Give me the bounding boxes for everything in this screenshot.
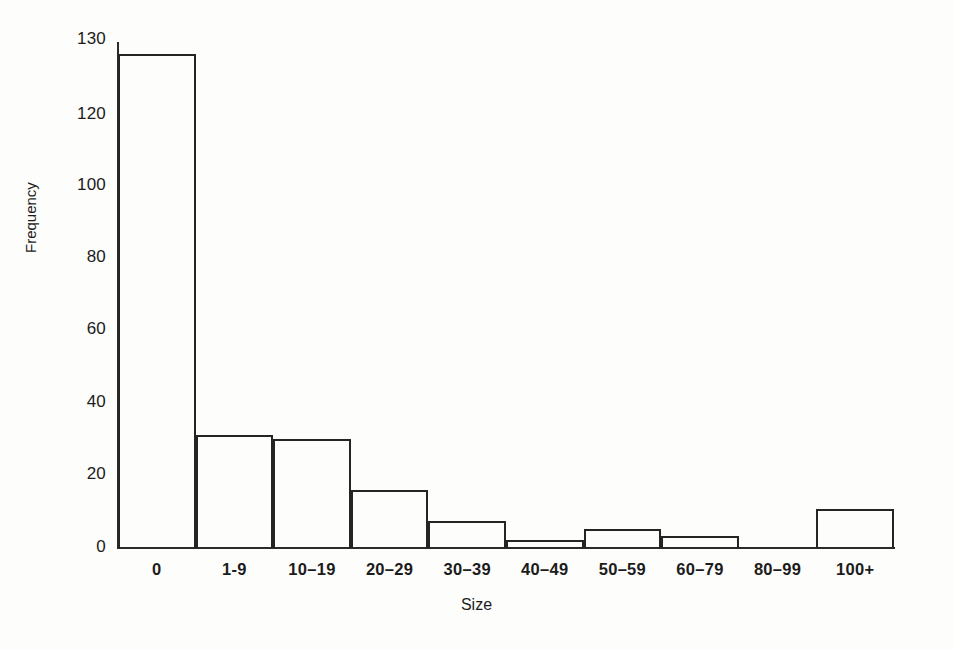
y-tick-80: 80 [42,248,106,265]
x-tick-80-99: 80–99 [739,560,817,579]
bar-30-39 [428,521,506,548]
bar-series [118,42,894,548]
x-tick-40-49: 40–49 [506,560,584,579]
bar-40-49 [506,540,584,548]
histogram-figure: 130 120 100 80 60 40 20 0 0 1-9 10–19 20… [0,0,953,650]
y-tick-0: 0 [42,538,106,555]
x-tick-0: 0 [118,560,196,579]
y-tick-60: 60 [42,320,106,337]
x-tick-30-39: 30–39 [428,560,506,579]
y-tick-40: 40 [42,393,106,410]
bar-1-9 [196,435,274,548]
y-tick-20: 20 [42,465,106,482]
bar-60-79 [661,536,739,548]
y-axis-tick-labels: 130 120 100 80 60 40 20 0 [42,0,106,650]
y-tick-100: 100 [42,176,106,193]
bar-100-plus [816,509,894,548]
bar-50-59 [584,529,662,549]
y-axis-title: Frequency [22,182,39,253]
bar-20-29 [351,490,429,548]
x-tick-60-79: 60–79 [661,560,739,579]
x-tick-1-9: 1-9 [196,560,274,579]
bar-10-19 [273,439,351,548]
x-tick-20-29: 20–29 [351,560,429,579]
x-axis-title: Size [0,596,953,614]
y-tick-120: 120 [42,105,106,122]
bar-0 [118,54,196,548]
x-tick-100-plus: 100+ [816,560,894,579]
x-axis-tick-labels: 0 1-9 10–19 20–29 30–39 40–49 50–59 60–7… [118,560,894,588]
x-tick-10-19: 10–19 [273,560,351,579]
x-tick-50-59: 50–59 [584,560,662,579]
y-tick-130: 130 [42,30,106,47]
